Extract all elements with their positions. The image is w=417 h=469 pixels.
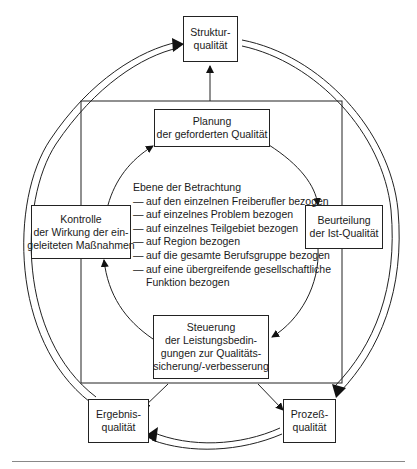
node-label: Prozeß-: [291, 408, 328, 421]
levels-of-observation: Ebene der Betrachtung auf den einzelnen …: [133, 181, 331, 290]
node-label: qualität: [102, 421, 136, 434]
levels-title: Ebene der Betrachtung: [133, 181, 331, 195]
level-item: auf eine übergreifende gesellschaftliche: [133, 263, 331, 277]
level-item: auf den einzelnen Freiberufler bezogen: [133, 195, 331, 209]
node-label: qualität: [194, 39, 228, 52]
node-label: der Wirkung der ein-: [33, 226, 128, 239]
node-label: der Leistungsbedin-: [165, 334, 257, 347]
node-label: gungen zur Qualitäts-: [161, 347, 261, 360]
node-label: Ergebnis-: [96, 408, 141, 421]
level-item: auf die gesamte Berufsgruppe bezogen: [133, 249, 331, 263]
double-arrow-prozess-to-ergebnis: [152, 428, 282, 449]
node-label: qualität: [293, 421, 327, 434]
node-planung: Planung der geforderten Qualität: [154, 109, 270, 147]
node-label: geleiteten Maßnahmen: [27, 239, 134, 252]
node-strukturqualitaet: Struktur- qualität: [183, 16, 238, 62]
level-item-continuation: Funktion bezogen: [133, 276, 331, 290]
node-prozessqualitaet: Prozeß- qualität: [283, 399, 336, 443]
level-item: auf einzelnes Teilgebiet bezogen: [133, 222, 331, 236]
bottom-divider: [12, 461, 405, 462]
node-steuerung: Steuerung der Leistungsbedin- gungen zur…: [153, 315, 269, 379]
node-label: Planung: [193, 115, 232, 128]
arrow-square-to-prozess: [258, 384, 283, 410]
node-ergebnisqualitaet: Ergebnis- qualität: [88, 399, 149, 443]
level-item: auf Region bezogen: [133, 235, 331, 249]
arrowhead-prozess: [332, 384, 346, 398]
node-label: Kontrolle: [60, 213, 101, 226]
level-item: auf einzelnes Problem bezogen: [133, 208, 331, 222]
node-label: Steuerung: [187, 321, 235, 334]
node-kontrolle: Kontrolle der Wirkung der ein- geleitete…: [31, 205, 131, 259]
node-label: sicherung/-verbesserung: [153, 360, 269, 373]
node-label: Struktur-: [190, 26, 230, 39]
node-label: der geforderten Qualität: [157, 128, 268, 141]
